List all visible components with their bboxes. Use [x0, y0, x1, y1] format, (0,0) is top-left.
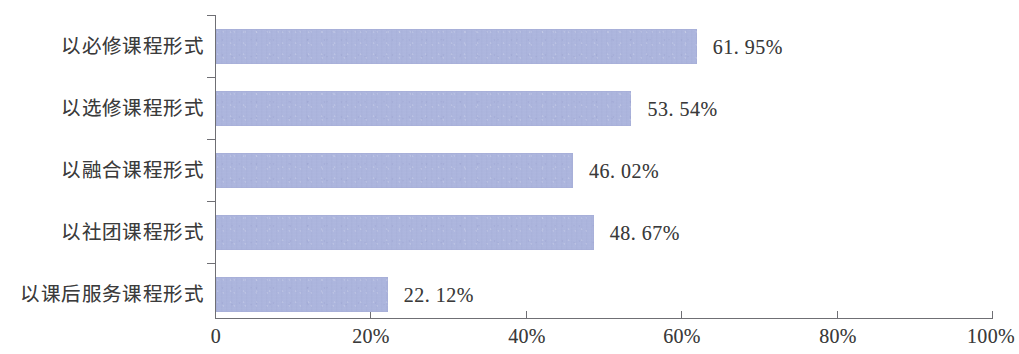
- category-label: 以课后服务课程形式: [0, 285, 204, 305]
- y-axis-tick: [207, 77, 216, 78]
- bar-value-label: 46. 02%: [589, 161, 659, 181]
- plot-area: 61. 95% 53. 54% 46. 02% 48. 67% 22. 12%: [216, 0, 1019, 354]
- y-axis-tick: [207, 263, 216, 264]
- bar-value-label: 53. 54%: [647, 99, 717, 119]
- y-axis-tick: [207, 139, 216, 140]
- bar: [216, 277, 388, 312]
- bar-chart: 以必修课程形式 以选修课程形式 以融合课程形式 以社团课程形式 以课后服务课程形…: [0, 0, 1019, 354]
- bar-value-label: 22. 12%: [404, 285, 474, 305]
- category-label: 以社团课程形式: [0, 223, 204, 243]
- bar: [216, 29, 697, 64]
- category-label: 以选修课程形式: [0, 99, 204, 119]
- category-axis-labels: 以必修课程形式 以选修课程形式 以融合课程形式 以社团课程形式 以课后服务课程形…: [0, 0, 210, 354]
- bar-value-label: 48. 67%: [610, 223, 680, 243]
- y-axis-tick: [207, 15, 216, 16]
- category-label: 以必修课程形式: [0, 37, 204, 57]
- bar: [216, 91, 631, 126]
- bar-value-label: 61. 95%: [713, 37, 783, 57]
- bar: [216, 215, 594, 250]
- category-label: 以融合课程形式: [0, 161, 204, 181]
- y-axis-tick: [207, 201, 216, 202]
- bar: [216, 153, 573, 188]
